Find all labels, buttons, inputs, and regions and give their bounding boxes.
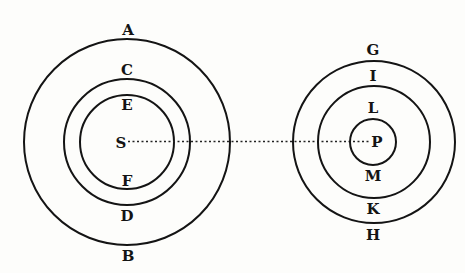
label-S: S <box>116 134 127 152</box>
label-D: D <box>120 207 133 225</box>
s-system: A B C D E F S <box>24 21 230 265</box>
label-B: B <box>122 247 135 265</box>
label-G: G <box>367 41 380 59</box>
label-C: C <box>121 61 133 79</box>
label-F: F <box>122 172 133 190</box>
label-P: P <box>371 133 382 151</box>
label-E: E <box>121 96 132 114</box>
label-H: H <box>366 226 380 244</box>
p-system: G H I K L M P <box>293 41 455 244</box>
label-A: A <box>121 21 134 39</box>
label-I: I <box>369 67 376 85</box>
label-M: M <box>365 167 382 185</box>
label-K: K <box>366 200 380 218</box>
orbit-diagram: A B C D E F S G H I K L M P <box>0 0 465 273</box>
label-L: L <box>368 99 379 117</box>
